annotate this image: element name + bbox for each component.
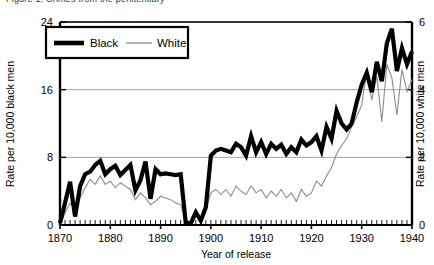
legend-label-white: White	[157, 37, 186, 49]
x-tick-label: 1930	[349, 232, 373, 244]
x-axis-tick-labels: 18701880189019001910192019301940	[48, 232, 424, 244]
y-axis-title-left: Rate per 10,000 black men	[4, 61, 16, 187]
left-tick-label: 8	[47, 151, 53, 163]
x-tick-label: 1880	[98, 232, 122, 244]
x-tick-label: 1910	[249, 232, 273, 244]
x-tick-label: 1920	[299, 232, 323, 244]
x-tick-label: 1900	[199, 232, 223, 244]
x-tick-label: 1940	[400, 232, 424, 244]
x-tick-label: 1870	[48, 232, 72, 244]
left-tick-label: 16	[41, 84, 53, 96]
figure-caption: Figure 1. Crimes from the penitentiary	[6, 0, 165, 4]
right-tick-label: 6	[419, 16, 425, 28]
line-chart: 18701880189019001910192019301940 081624 …	[0, 0, 434, 265]
left-tick-label: 0	[47, 219, 53, 231]
right-tick-label: 0	[419, 219, 425, 231]
figure-container: Figure 1. Crimes from the penitentiary 1…	[0, 0, 434, 265]
y-axis-title-right: Rate per 10,000 white men	[414, 61, 426, 187]
chart-legend: Black White	[46, 27, 188, 58]
legend-label-black: Black	[90, 37, 118, 49]
x-tick-label: 1890	[148, 232, 172, 244]
x-axis-title: Year of release	[201, 248, 271, 260]
